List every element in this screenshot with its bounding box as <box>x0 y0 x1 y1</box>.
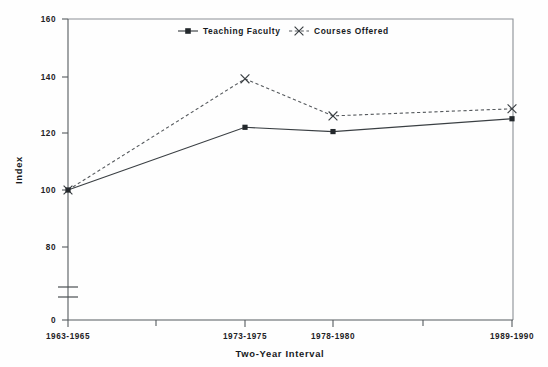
series-line-teaching-faculty <box>68 119 512 190</box>
y-tick-label-0: 0 <box>51 316 56 325</box>
x-axis-title: Two-Year Interval <box>236 348 325 359</box>
line-chart: 160 140 120 100 80 0 Index 1963-1965 197… <box>0 0 548 367</box>
y-tick-label-100: 100 <box>41 186 56 195</box>
y-tick-label-120: 120 <box>41 129 56 138</box>
legend-label-courses-offered: Courses Offered <box>314 26 389 36</box>
x-tick-label-1: 1973-1975 <box>223 332 267 341</box>
data-point-x-marker <box>508 104 517 113</box>
series-line-courses-offered <box>68 79 512 190</box>
data-point-square-marker <box>242 125 247 130</box>
data-point-square-marker <box>330 129 335 134</box>
y-tick-label-160: 160 <box>41 15 56 24</box>
data-point-square-marker <box>65 187 70 192</box>
y-tick-label-80: 80 <box>46 243 56 252</box>
data-point-square-marker <box>509 116 514 121</box>
legend-entry-teaching-faculty: Teaching Faculty <box>178 26 280 36</box>
legend: Teaching Faculty Courses Offered <box>178 26 389 36</box>
series-markers-teaching-faculty <box>65 116 514 192</box>
y-axis-title: Index <box>13 156 24 184</box>
chart-screenshot: 160 140 120 100 80 0 Index 1963-1965 197… <box>0 0 548 367</box>
legend-label-teaching-faculty: Teaching Faculty <box>203 26 280 36</box>
data-point-x-marker <box>241 74 250 83</box>
series-markers-courses-offered <box>64 74 517 194</box>
x-tick-label-0: 1963-1965 <box>46 332 90 341</box>
legend-square-marker-icon <box>185 28 191 34</box>
x-tick-label-3: 1989-1990 <box>490 332 534 341</box>
y-tick-label-140: 140 <box>41 73 56 82</box>
plot-frame <box>68 19 513 320</box>
x-tick-label-2: 1978-1980 <box>311 332 355 341</box>
legend-entry-courses-offered: Courses Offered <box>289 26 389 36</box>
